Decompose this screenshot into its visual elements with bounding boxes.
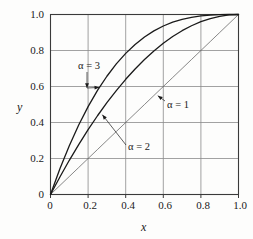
x-axis-title: x	[141, 221, 146, 233]
x-tick-label-0: 0	[40, 200, 60, 211]
annotation-leaders	[85, 72, 165, 145]
y-tick-label-2: 0.4	[14, 117, 44, 128]
y-tick-label-0: 0	[22, 189, 44, 200]
annotation-text-alpha1: α = 1	[167, 99, 189, 110]
x-tick-label-3: 0.6	[151, 200, 179, 211]
curve-lines	[51, 15, 239, 195]
x-tick-label-5: 1.0	[226, 200, 253, 211]
annotation-label-alpha2: α = 2	[128, 142, 150, 153]
y-tick-label-3: 0.6	[14, 81, 44, 92]
annotation-label-alpha3: α = 3	[78, 61, 100, 72]
y-tick-label-5: 1.0	[14, 9, 44, 20]
chart-figure: 0 0.2 0.4 0.6 0.8 1.0 0 0.2 0.4 0.6 0.8 …	[0, 0, 253, 239]
annotation-label-alpha1: α = 1	[167, 100, 189, 111]
x-tick-label-1: 0.2	[76, 200, 104, 211]
x-tick-label-4: 0.8	[189, 200, 217, 211]
y-tick-label-1: 0.2	[14, 153, 44, 164]
annotation-text-alpha3: α = 3	[78, 60, 100, 71]
x-tick-label-2: 0.4	[114, 200, 142, 211]
y-axis-title: y	[17, 101, 22, 113]
y-tick-label-4: 0.8	[14, 45, 44, 56]
annotation-text-alpha2: α = 2	[128, 141, 150, 152]
